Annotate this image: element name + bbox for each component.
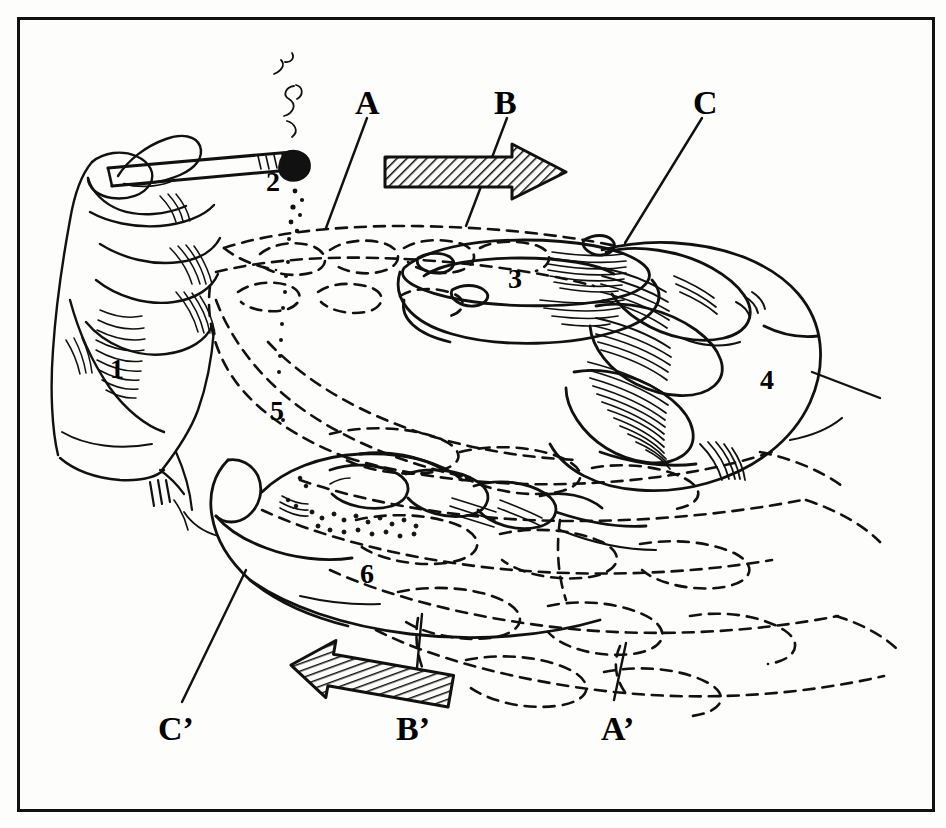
- callout-1: 1: [110, 355, 124, 383]
- illustration-artwork: [0, 0, 946, 828]
- section-label-C-prime: C’: [158, 712, 194, 746]
- lower-left-hand: [211, 453, 656, 638]
- arrow-left: [286, 634, 456, 719]
- callout-5: 5: [270, 397, 284, 425]
- section-label-A: A: [355, 86, 380, 120]
- callout-2: 2: [266, 168, 280, 196]
- callout-4: 4: [760, 366, 774, 394]
- figure-page: A B C C’ B’ A’ 1 2 3 4 5 6: [0, 0, 946, 828]
- leader-C: [625, 118, 702, 243]
- section-label-C: C: [693, 86, 718, 120]
- section-label-A-prime: A’: [601, 712, 634, 746]
- callout-3: 3: [508, 265, 522, 293]
- callout-6: 6: [360, 560, 374, 588]
- phantom-hand-outlines: [209, 226, 898, 716]
- section-label-B-prime: B’: [396, 712, 430, 746]
- leader-C-prime: [182, 570, 246, 702]
- right-hand: [550, 242, 880, 490]
- arrow-right: [385, 144, 566, 199]
- hand-edge-marks: [150, 452, 218, 536]
- leader-A: [326, 118, 367, 228]
- falling-ash: [277, 189, 304, 422]
- smoke-wisps: [274, 53, 302, 137]
- section-label-B: B: [494, 86, 517, 120]
